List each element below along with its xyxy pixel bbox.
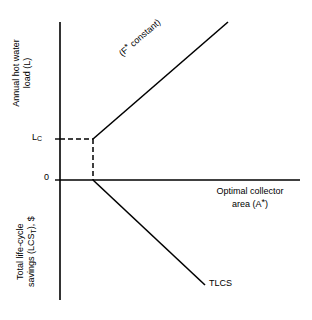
y-axis-lower-title-line2-pre: savings (LCS (26, 234, 36, 288)
x-axis-title-line2-pre: area (A (232, 199, 262, 209)
y-axis-upper-title-line1: Annual hot water (11, 39, 21, 107)
x-axis-title-line2-post: ) (265, 199, 268, 209)
y-axis-lower-title-line1: Total life-cycle (15, 223, 25, 280)
y-axis-lower-title-line2-post: ), $ (26, 216, 36, 229)
x-axis-title: Optimal collector area (A*) (196, 186, 304, 210)
lcs-subscript-t: T (30, 229, 37, 233)
x-axis-title-line1: Optimal collector (216, 186, 283, 196)
x-axis-title-line2: area (A*) (232, 199, 268, 209)
y-axis-lower-title: Total life-cycle savings (LCST), $ (15, 198, 38, 306)
y-axis-upper-title: Annual hot water load (L) (11, 21, 33, 125)
plot-svg (0, 0, 312, 320)
lc-subscript-c: C (37, 135, 42, 142)
y-axis-lower-title-line2: savings (LCST), $ (26, 216, 36, 287)
tlcs-line-annotation: TLCS (209, 278, 232, 289)
tlcs-line (93, 180, 205, 285)
y-axis-upper-title-line2: load (L) (22, 58, 32, 89)
y-tick-label-lc: LC (32, 132, 42, 144)
y-tick-label-zero: 0 (44, 172, 49, 183)
hot-water-load-line (93, 22, 228, 139)
figure-container: Annual hot water load (L) Total life-cyc… (0, 0, 312, 320)
